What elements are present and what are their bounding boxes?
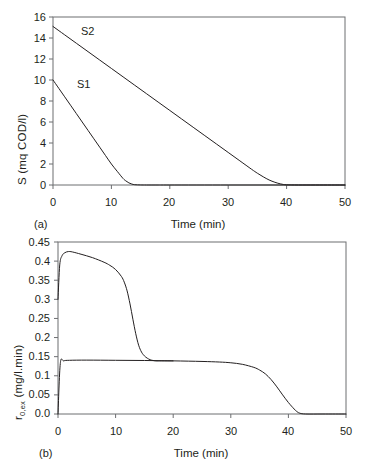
- chart-panel-a: S (mq COD/l) 16 14 12 10 8 6 4 2 0 0 10 …: [0, 0, 370, 240]
- chart-panel-b: r0,ex (mg/l.min) 0.45 0.4 0.35 0.3 0.25 …: [0, 240, 370, 474]
- panel-a-plot-area: [0, 0, 370, 240]
- figure-container: S (mq COD/l) 16 14 12 10 8 6 4 2 0 0 10 …: [0, 0, 370, 474]
- panel-b-plot-area: [0, 240, 370, 474]
